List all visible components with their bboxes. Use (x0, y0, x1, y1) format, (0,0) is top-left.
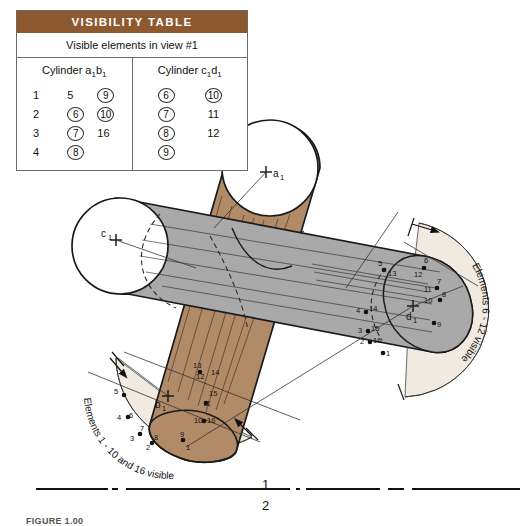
svg-text:13: 13 (388, 269, 396, 278)
ab-sub2: 1 (102, 70, 106, 79)
column-cylinder-cd: Cylinder c1d1 6 10 7 11 8 12 (133, 58, 248, 170)
svg-text:8: 8 (154, 433, 158, 442)
table-row: 2 6 10 (27, 105, 122, 124)
cell: 7 (143, 107, 190, 122)
svg-text:3: 3 (358, 326, 362, 335)
label-d1: d (406, 311, 412, 322)
table-row: 3 7 16 (27, 124, 122, 143)
svg-text:3: 3 (130, 434, 134, 443)
cell: 6 (143, 88, 190, 103)
svg-text:9: 9 (437, 320, 441, 329)
column-ab-title: Cylinder a1b1 (17, 64, 132, 86)
figure-root: a 1 c 1 d 1 b 1 (0, 0, 530, 526)
svg-text:12: 12 (196, 372, 204, 381)
svg-text:2: 2 (360, 337, 364, 346)
cell: 9 (143, 145, 190, 160)
label-a1: a (273, 168, 279, 179)
cell: 8 (57, 145, 91, 160)
svg-text:13: 13 (193, 361, 201, 370)
svg-text:7: 7 (140, 424, 144, 433)
svg-text:1: 1 (280, 173, 284, 182)
circled-value: 7 (158, 107, 175, 122)
svg-text:1: 1 (162, 404, 166, 413)
visibility-table-header: VISIBILITY TABLE (17, 11, 247, 33)
svg-text:16: 16 (207, 416, 215, 425)
svg-text:11: 11 (203, 399, 211, 408)
visibility-table: VISIBILITY TABLE Visible elements in vie… (16, 10, 248, 171)
svg-text:15: 15 (209, 389, 217, 398)
svg-text:9: 9 (180, 430, 184, 439)
label-c1: c (101, 228, 106, 239)
circled-value: 9 (97, 88, 114, 103)
circled-value: 6 (158, 88, 175, 103)
table-row: 1 5 9 (27, 86, 122, 105)
svg-text:1: 1 (186, 443, 190, 452)
cell: 5 (57, 90, 91, 101)
cd-rows: 6 10 7 11 8 12 9 (133, 86, 248, 162)
cell: 7 (57, 126, 91, 141)
svg-text:6: 6 (129, 411, 133, 420)
table-row: 6 10 (143, 86, 238, 105)
cell: 10 (190, 88, 237, 103)
svg-text:8: 8 (442, 290, 446, 299)
svg-text:12: 12 (414, 270, 422, 279)
cell: 9 (91, 88, 121, 103)
visibility-table-subtitle: Visible elements in view #1 (17, 33, 247, 58)
svg-text:10: 10 (194, 416, 202, 425)
figure-caption: FIGURE 1.00 (26, 516, 83, 526)
circle-c1 (72, 198, 168, 294)
cd-sub2: 1 (217, 70, 221, 79)
svg-text:6: 6 (424, 256, 428, 265)
svg-text:2: 2 (146, 443, 150, 452)
ab-rows: 1 5 9 2 6 10 3 7 16 4 (17, 86, 132, 162)
svg-text:4: 4 (117, 413, 121, 422)
column-cd-title: Cylinder c1d1 (133, 64, 248, 86)
circled-value: 6 (67, 107, 84, 122)
cell: 16 (91, 128, 121, 139)
fold-line-label-upper: 1 (262, 477, 269, 492)
cell: 11 (190, 109, 237, 120)
cell: 8 (143, 126, 190, 141)
svg-text:10: 10 (424, 296, 432, 305)
svg-text:1: 1 (413, 316, 417, 325)
svg-text:14: 14 (211, 368, 219, 377)
column-cylinder-ab: Cylinder a1b1 1 5 9 2 6 10 3 7 (17, 58, 133, 170)
svg-text:5: 5 (114, 387, 118, 396)
cell: 12 (190, 128, 237, 139)
cell: 6 (57, 107, 91, 122)
fold-line-label-lower: 2 (262, 498, 269, 513)
cell: 2 (27, 109, 57, 120)
table-row: 8 12 (143, 124, 238, 143)
table-row: 4 8 (27, 143, 122, 162)
svg-text:5: 5 (378, 259, 382, 268)
table-row: 7 11 (143, 105, 238, 124)
table-row: 9 (143, 143, 238, 162)
cell: 1 (27, 90, 57, 101)
svg-text:7: 7 (437, 277, 441, 286)
svg-text:4: 4 (356, 306, 360, 315)
circled-value: 10 (205, 88, 222, 103)
svg-text:15: 15 (371, 324, 379, 333)
circled-value: 8 (158, 126, 175, 141)
circled-value: 10 (97, 107, 114, 122)
svg-text:1: 1 (108, 233, 112, 242)
svg-text:11: 11 (424, 285, 432, 294)
circled-value: 8 (67, 145, 84, 160)
svg-text:16: 16 (373, 336, 381, 345)
cell: 4 (27, 147, 57, 158)
circled-value: 9 (158, 145, 175, 160)
ab-title-prefix: Cylinder a (42, 64, 92, 76)
cell: 3 (27, 128, 57, 139)
cell: 10 (91, 107, 121, 122)
cd-title-prefix: Cylinder c (158, 64, 207, 76)
circled-value: 7 (67, 126, 84, 141)
svg-text:1: 1 (386, 349, 390, 358)
svg-text:14: 14 (369, 304, 377, 313)
